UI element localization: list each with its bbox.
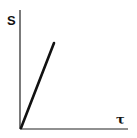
x-axis-label: τ [116,113,125,126]
data-line [21,43,54,128]
y-axis-label: S [7,14,16,27]
